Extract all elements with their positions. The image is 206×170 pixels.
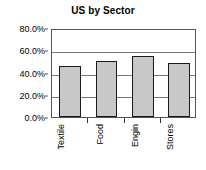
y-axis-tick-mark (45, 95, 48, 96)
y-axis-tick-mark (45, 29, 48, 30)
x-axis-label-slot: Textile (51, 122, 87, 168)
bar[interactable] (168, 63, 190, 117)
bar-slot (88, 30, 124, 117)
bar[interactable] (59, 66, 81, 117)
y-axis-tick-label: 0.0% (24, 113, 45, 123)
x-axis-labels: TextileFoodEnginStores (51, 122, 196, 168)
x-axis-tick-label: Engin (130, 124, 140, 147)
y-axis-tick-mark (45, 73, 48, 74)
y-axis-labels: 0.0%20.0%40.0%60.0%80.0% (0, 29, 48, 118)
x-axis-label-slot: Food (87, 122, 123, 168)
bar-slot (125, 30, 161, 117)
plot-area (51, 29, 196, 118)
y-axis-tick-label: 80.0% (19, 24, 45, 34)
bar[interactable] (96, 61, 118, 117)
bar-chart: US by Sector 0.0%20.0%40.0%60.0%80.0% Te… (0, 0, 206, 170)
x-axis-label-slot: Engin (124, 122, 160, 168)
x-axis-tick-label: Stores (165, 124, 175, 150)
bars-group (52, 30, 195, 117)
x-axis-tick-label: Food (95, 124, 105, 145)
chart-title: US by Sector (0, 5, 206, 16)
bar-slot (52, 30, 88, 117)
x-axis-label-slot: Stores (160, 122, 196, 168)
y-axis-tick-label: 40.0% (19, 69, 45, 79)
y-axis-tick-mark (45, 51, 48, 52)
bar-slot (161, 30, 197, 117)
y-axis-tick-label: 60.0% (19, 46, 45, 56)
bar[interactable] (132, 56, 154, 117)
x-axis-tick-label: Textile (56, 124, 66, 150)
y-axis-tick-label: 20.0% (19, 91, 45, 101)
y-axis-tick-mark (45, 118, 48, 119)
